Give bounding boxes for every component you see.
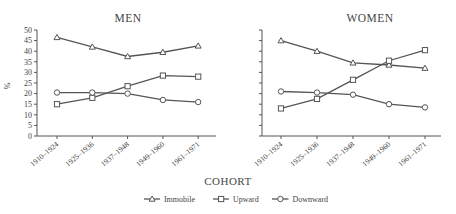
y-tick-label: 20 <box>24 89 32 98</box>
chart-canvas: MEN % 051015202530354045501910–19241925–… <box>0 0 456 214</box>
legend-label: Immobile <box>164 195 196 204</box>
y-tick-label: 30 <box>24 68 32 77</box>
y-tick-label: 25 <box>24 79 32 88</box>
square-marker-icon <box>314 96 319 101</box>
x-axis-label: COHORT <box>204 175 252 187</box>
circle-marker-icon <box>160 97 165 102</box>
square-marker-icon <box>422 48 427 53</box>
circle-marker-icon <box>54 90 59 95</box>
square-marker-icon <box>125 84 130 89</box>
x-tick-label: 1937–1948 <box>99 140 131 169</box>
y-tick-label: 50 <box>24 26 32 35</box>
square-marker-icon <box>90 95 95 100</box>
x-tick-label: 1961–1971 <box>396 140 428 169</box>
square-legend-icon <box>219 196 224 201</box>
legend-label: Upward <box>233 195 259 204</box>
legend-item-immobile: Immobile <box>144 195 196 204</box>
square-marker-icon <box>278 106 283 111</box>
square-marker-icon <box>54 102 59 107</box>
y-tick-label: 5 <box>28 121 32 130</box>
y-tick-label: 0 <box>28 132 32 141</box>
x-tick-label: 1910–1924 <box>28 140 60 169</box>
x-tick-label: 1925–1936 <box>288 140 320 169</box>
y-tick-label: 35 <box>24 58 32 67</box>
circle-marker-icon <box>278 89 283 94</box>
circle-marker-icon <box>90 90 95 95</box>
square-marker-icon <box>196 74 201 79</box>
square-marker-icon <box>350 77 355 82</box>
panel-women: WOMEN 1910–19241925–19361937–19481949–19… <box>252 12 441 168</box>
legend-item-upward: Upward <box>213 195 259 204</box>
legend-label: Downward <box>293 195 329 204</box>
panel-title-women: WOMEN <box>346 12 393 24</box>
circle-marker-icon <box>125 91 130 96</box>
x-tick-label: 1937–1948 <box>324 140 356 169</box>
circle-marker-icon <box>196 99 201 104</box>
figure: MEN % 051015202530354045501910–19241925–… <box>0 0 456 214</box>
x-tick-label: 1949–1960 <box>134 140 166 169</box>
circle-marker-icon <box>386 102 391 107</box>
triangle-marker-icon <box>278 38 284 43</box>
legend: ImmobileUpwardDownward <box>144 195 328 204</box>
x-tick-label: 1925–1936 <box>64 140 96 169</box>
circle-marker-icon <box>350 92 355 97</box>
circle-marker-icon <box>422 105 427 110</box>
panel-men: MEN % 051015202530354045501910–19241925–… <box>3 12 216 168</box>
circle-marker-icon <box>314 90 319 95</box>
y-tick-label: 15 <box>24 100 32 109</box>
panel-title-men: MEN <box>114 12 141 24</box>
x-tick-label: 1949–1960 <box>360 140 392 169</box>
circle-legend-icon <box>278 196 283 201</box>
y-axis-label: % <box>3 82 12 89</box>
x-tick-label: 1961–1971 <box>170 140 202 169</box>
x-tick-label: 1910–1924 <box>252 140 284 169</box>
square-marker-icon <box>386 58 391 63</box>
series-line-upward <box>57 76 198 105</box>
square-marker-icon <box>160 73 165 78</box>
triangle-marker-icon <box>54 34 60 39</box>
y-tick-label: 10 <box>24 111 32 120</box>
triangle-marker-icon <box>195 43 201 48</box>
legend-item-downward: Downward <box>272 195 328 204</box>
y-tick-label: 45 <box>24 36 32 45</box>
y-tick-label: 40 <box>24 47 32 56</box>
